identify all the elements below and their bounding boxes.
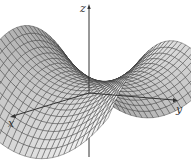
x-axis-label: x — [8, 117, 15, 130]
saddle-surface — [0, 26, 191, 159]
z-axis-label: z — [79, 2, 86, 15]
saddle-surface-diagram: z x y — [0, 0, 191, 162]
y-axis-label: y — [175, 103, 183, 116]
z-axis-arrowhead — [87, 4, 90, 9]
